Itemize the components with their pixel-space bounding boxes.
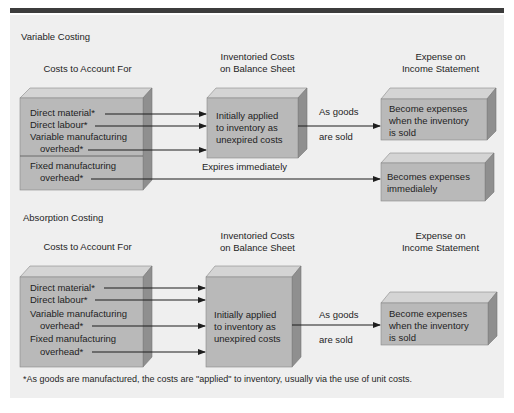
vc-variable-mfg-overhead-2: overhead* [40,143,83,155]
ac-expense-text-2: when the inventory [389,320,469,332]
ac-arrow-label-are-sold: are sold [319,334,353,346]
ac-variable-mfg-overhead-2: overhead* [40,320,83,332]
vc-fixed-mfg-overhead-1: Fixed manufacturing [30,160,116,172]
ac-expense-text-1: Become expenses [389,308,467,320]
vc-inventory-text-3: unexpired costs [216,134,283,146]
ac-fixed-mfg-overhead-1: Fixed manufacturing [30,333,116,345]
ac-direct-material: Direct material* [30,282,95,294]
vc-arrow-label-as-goods: As goods [319,106,359,118]
vc-period-expense-text-1: Becomes expenses [387,171,470,183]
vc-inventory-text-1: Initially applied [216,110,278,122]
ac-col-costs-heading: Costs to Account For [30,241,145,253]
ac-arrow-label-as-goods: As goods [319,309,359,321]
ac-expense-text-3: is sold [389,332,416,344]
vc-expense-text-3: is sold [389,127,416,139]
vc-expense-text-2: when the inventory [389,115,469,127]
ac-variable-mfg-overhead-1: Variable manufacturing [30,308,127,320]
footnote: *As goods are manufactured, the costs ar… [23,373,412,385]
vc-arrow-label-are-sold: are sold [319,131,353,143]
vc-col-inventory-heading-1: Inventoried Costs [200,51,315,63]
ac-section-title: Absorption Costing [23,212,103,224]
ac-col-inventory-heading-1: Inventoried Costs [200,230,315,242]
vc-direct-material: Direct material* [30,107,95,119]
ac-inventory-text-2: to inventory as [214,321,276,333]
vc-variable-mfg-overhead-1: Variable manufacturing [30,131,127,143]
vc-col-costs-heading: Costs to Account For [30,63,145,75]
vc-col-expense-heading-1: Expense on [383,51,498,63]
vc-fixed-mfg-overhead-2: overhead* [40,172,83,184]
ac-col-inventory-heading-2: on Balance Sheet [200,242,315,254]
vc-expense-text-1: Become expenses [389,103,467,115]
ac-fixed-mfg-overhead-2: overhead* [40,346,83,358]
ac-col-expense-heading-2: Income Statement [383,242,498,254]
vc-expires-immediately-label: Expires immediately [202,161,287,173]
vc-col-expense-heading-2: Income Statement [383,63,498,75]
vc-inventory-text-2: to inventory as [216,122,278,134]
vc-col-inventory-heading-2: on Balance Sheet [200,63,315,75]
vc-section-title: Variable Costing [21,31,90,43]
ac-inventory-text-3: unexpired costs [214,333,281,345]
ac-inventory-text-1: Initially applied [214,309,276,321]
ac-col-expense-heading-1: Expense on [383,230,498,242]
vc-period-expense-text-2: immedialely [387,183,437,195]
ac-direct-labour: Direct labour* [30,294,88,306]
vc-direct-labour: Direct labour* [30,119,88,131]
